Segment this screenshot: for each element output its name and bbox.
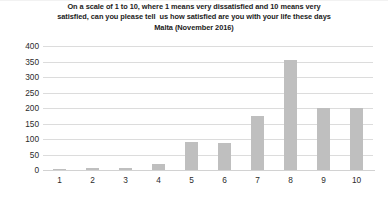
x-tick-label-1: 1 <box>43 176 76 185</box>
chart-title-line-2: satisfied, can you please tell us how sa… <box>24 12 364 22</box>
bar-9 <box>317 108 330 170</box>
x-tick-label-5: 5 <box>175 176 208 185</box>
y-tick-label-50: 50 <box>0 151 39 159</box>
bar-8 <box>284 60 297 170</box>
x-tick-label-6: 6 <box>208 176 241 185</box>
bar-5 <box>185 142 198 170</box>
chart-title: On a scale of 1 to 10, where 1 means ver… <box>24 2 364 33</box>
x-axis-line <box>43 170 375 171</box>
bar-1 <box>53 169 66 170</box>
y-axis-tick-labels: 400350300250200150100500 <box>0 40 39 180</box>
x-tick-label-8: 8 <box>274 176 307 185</box>
y-tick-label-300: 300 <box>0 73 39 81</box>
chart-title-line-1: On a scale of 1 to 10, where 1 means ver… <box>24 2 364 12</box>
x-tick-label-9: 9 <box>307 176 340 185</box>
x-tick-label-2: 2 <box>76 176 109 185</box>
y-tick-label-100: 100 <box>0 135 39 143</box>
y-tick-label-200: 200 <box>0 104 39 112</box>
bars-layer <box>43 46 373 170</box>
bar-6 <box>218 143 231 170</box>
y-tick-label-250: 250 <box>0 89 39 97</box>
x-tick-label-3: 3 <box>109 176 142 185</box>
y-tick-label-350: 350 <box>0 58 39 66</box>
y-tick-label-150: 150 <box>0 120 39 128</box>
bar-chart-figure: On a scale of 1 to 10, where 1 means ver… <box>0 0 388 199</box>
bar-4 <box>152 164 165 170</box>
x-tick-label-7: 7 <box>241 176 274 185</box>
x-tick-label-4: 4 <box>142 176 175 185</box>
figure-top-border <box>0 0 388 1</box>
y-tick-label-400: 400 <box>0 42 39 50</box>
bar-7 <box>251 116 264 170</box>
x-axis-tick-labels: 12345678910 <box>43 176 373 192</box>
bar-2 <box>86 168 99 170</box>
x-tick-label-10: 10 <box>340 176 373 185</box>
bar-3 <box>119 168 132 170</box>
bar-10 <box>350 108 363 170</box>
chart-title-line-3: Malta (November 2016) <box>24 23 364 33</box>
y-tick-label-0: 0 <box>0 166 39 174</box>
